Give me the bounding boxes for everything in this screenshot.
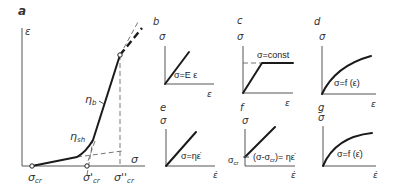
tick-sigma-cr1: σ'cr (83, 171, 101, 185)
panel-d-x-axis-label: ε (371, 99, 376, 109)
panel-f-equation: (σ-σcr)= ηε̇ (253, 152, 296, 163)
rheology-diagram: a ε σ ηb ηsh σcr σ'cr σ''cr b σ σ=E ε (0, 0, 399, 188)
panel-d-label: d (314, 16, 321, 27)
panel-a-y-axis-label: ε (25, 26, 31, 37)
eta-b-label: ηb (85, 93, 97, 107)
panel-d: d σ σ=f (ε) ε (314, 16, 376, 109)
panel-a: a ε σ ηb ηsh σcr σ'cr σ''cr (18, 4, 145, 185)
panel-d-curve (322, 56, 371, 94)
panel-a-curve (32, 55, 120, 166)
panel-c-label: c (237, 15, 243, 26)
panel-d-equation: σ=f (ε) (334, 78, 360, 88)
marker-sigma-cr1 (85, 164, 89, 168)
tick-sigma-cr: σcr (28, 171, 43, 185)
panel-e-x-axis-label: ε̇ (213, 170, 218, 180)
panel-c-equation: σ=const (257, 50, 290, 60)
eta-b-leader (99, 101, 104, 104)
panel-e-label: e (160, 102, 166, 113)
panel-e-equation: σ=ηε̇ (181, 151, 202, 161)
marker-sigma-cr2 (118, 53, 122, 57)
panel-a-x-axis-label: σ (131, 153, 139, 166)
panel-a-label: a (18, 4, 26, 18)
panel-b-equation: σ=E ε (174, 70, 197, 80)
tick-sigma-cr2: σ''cr (114, 171, 135, 185)
panel-c-y-axis-label: σ (237, 31, 244, 42)
panel-f-x-axis-label: ε̇ (291, 170, 296, 180)
panel-d-y-axis-label: σ (319, 31, 326, 42)
panel-b: b σ σ=E ε ε (153, 16, 214, 99)
panel-f-offset-label: σcr (228, 155, 239, 166)
panel-b-x-axis-label: ε (207, 89, 212, 99)
panel-g: g σ σ=f (ε̇) ε̇ (318, 102, 378, 180)
marker-sigma-cr (30, 164, 34, 168)
panel-c-line (243, 63, 293, 93)
panel-c: c σ σ=const ε (237, 15, 293, 108)
panel-f: f σ σcr (σ-σcr)= ηε̇ ε̇ (228, 102, 296, 180)
panel-g-equation: σ=f (ε̇) (337, 149, 363, 159)
panel-e-y-axis-label: σ (160, 115, 167, 126)
panel-e: e σ σ=ηε̇ ε̇ (160, 102, 218, 180)
panel-b-y-axis-label: σ (159, 31, 166, 42)
panel-c-x-axis-label: ε (285, 98, 290, 108)
eta-sh-label: ηsh (70, 130, 85, 144)
panel-g-y-axis-label: σ (318, 112, 325, 123)
panel-g-x-axis-label: ε̇ (373, 170, 378, 180)
panel-a-curve-extension (120, 28, 142, 55)
panel-b-label: b (153, 16, 159, 27)
panel-f-y-axis-label: σ (242, 115, 249, 126)
panel-f-label: f (240, 102, 245, 113)
